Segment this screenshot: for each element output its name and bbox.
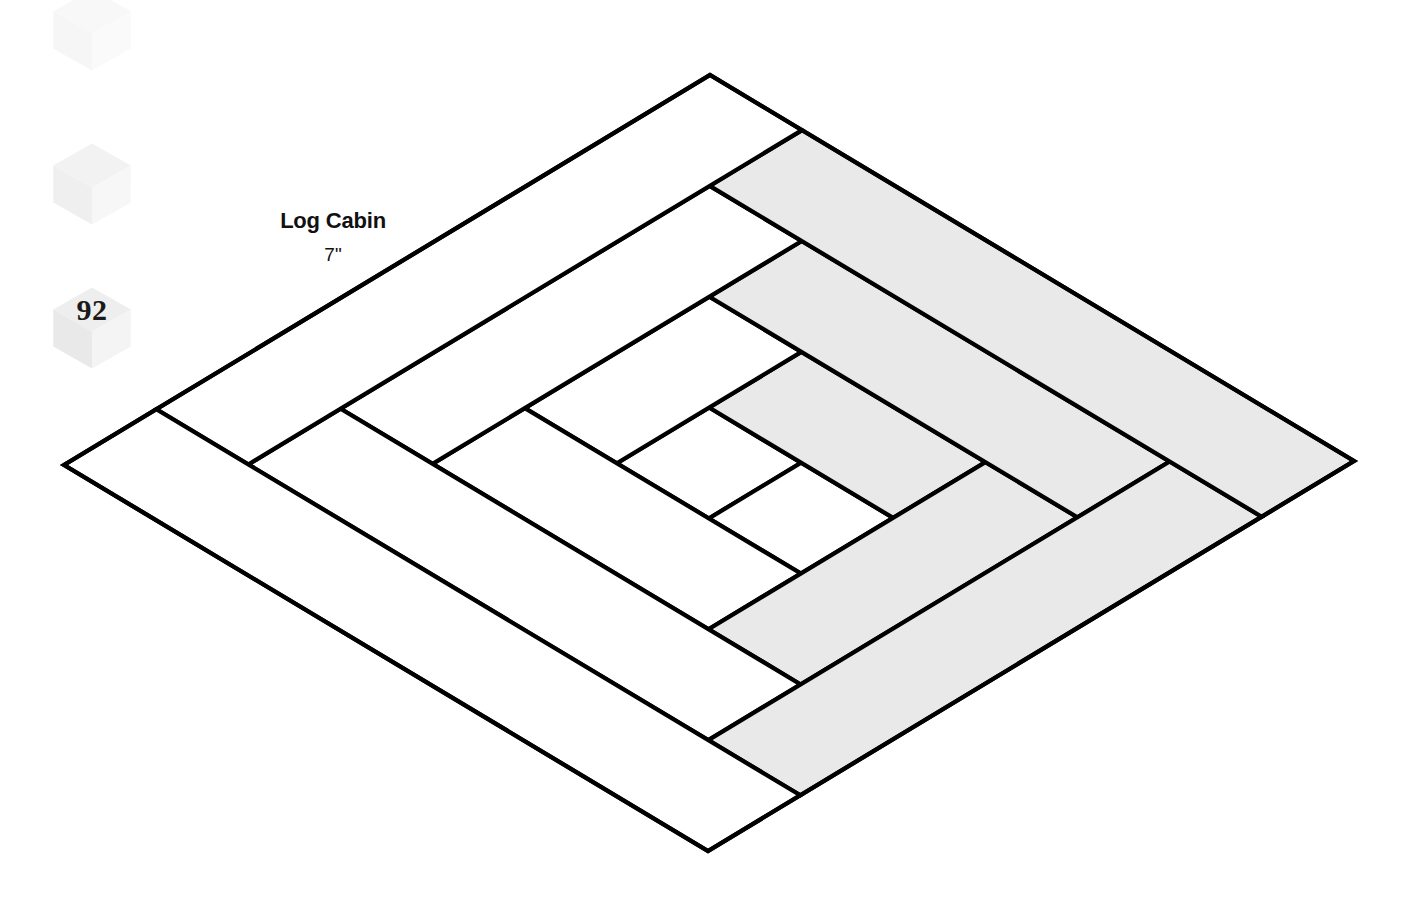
block-size-label: 7" [0,244,666,266]
page-canvas: 92 Log Cabin 7" [0,0,1426,900]
log-cabin-block-diagram [0,0,1426,900]
quilt-pieces [64,75,1354,851]
block-title-label: Log Cabin [0,208,666,234]
